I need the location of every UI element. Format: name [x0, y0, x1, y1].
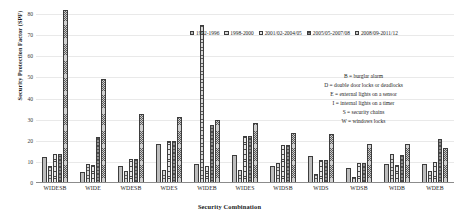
y-tick-label: 60 [27, 53, 33, 59]
y-tick-label: 0 [30, 180, 33, 186]
bar [390, 154, 395, 183]
bar [443, 148, 448, 183]
y-tick-label: 40 [27, 96, 33, 102]
legend-swatch-icon [259, 31, 263, 35]
bar-group [150, 14, 188, 183]
bar [101, 79, 106, 183]
bar [129, 159, 134, 183]
legend-swatch-icon [307, 31, 311, 35]
bar [324, 160, 329, 183]
legend-label: 2008/09-2011/12 [361, 30, 398, 36]
bar [58, 154, 63, 183]
y-tick-label: 10 [27, 159, 33, 165]
bar [308, 156, 313, 183]
bar [134, 159, 139, 183]
bar-group [188, 14, 226, 183]
bar-group [36, 14, 74, 183]
bar [270, 166, 275, 183]
bar [405, 144, 410, 183]
bar [357, 163, 362, 183]
x-tick-label: WIDESB [36, 185, 74, 191]
bar [346, 168, 351, 183]
bar [63, 10, 68, 183]
bar [48, 166, 53, 183]
bar [433, 162, 438, 183]
bar [286, 145, 291, 183]
y-tick-label: 70 [27, 32, 33, 38]
x-tick-label: WIDES [226, 185, 264, 191]
key-line: W = windows locks [276, 117, 451, 126]
legend-item: 2001/02-2004/05 [259, 30, 302, 36]
abbreviation-key: B = burglar alarmD = double door locks o… [276, 72, 451, 125]
bar [177, 117, 182, 183]
bar [139, 114, 144, 183]
legend-item: 1998-2000 [224, 30, 253, 36]
bar [438, 139, 443, 183]
chart-legend: 1992-19961998-20002001/02-2004/052005/05… [190, 30, 398, 36]
x-tick-label: WIDSB [264, 185, 302, 191]
legend-item: 2008/09-2011/12 [355, 30, 398, 36]
key-line: E = external lights on a sensor [276, 90, 451, 99]
bar [156, 144, 161, 183]
bar [86, 164, 91, 183]
key-line: I = internal lights on a timer [276, 99, 451, 108]
bar [172, 141, 177, 183]
bar [53, 154, 58, 183]
bar [42, 157, 47, 183]
bar [276, 163, 281, 183]
key-line: S = security chains [276, 108, 451, 117]
legend-swatch-icon [355, 31, 359, 35]
y-axis-title: Security Protection Factor (SPF) [16, 0, 23, 132]
bar [205, 166, 210, 183]
bar [362, 163, 367, 183]
x-axis-line [36, 182, 454, 183]
y-tick-label: 50 [27, 74, 33, 80]
bar [232, 155, 237, 183]
bar [319, 160, 324, 183]
bar-group [112, 14, 150, 183]
bar [281, 145, 286, 183]
y-tick-label: 20 [27, 138, 33, 144]
x-tick-label: WIDEB [188, 185, 226, 191]
bar-group [226, 14, 264, 183]
bar [395, 165, 400, 183]
bar [291, 133, 296, 183]
x-tick-label: WDEB [416, 185, 454, 191]
bar [243, 136, 248, 183]
key-line: D = double door locks or deadlocks [276, 81, 451, 90]
bar [194, 164, 199, 183]
legend-swatch-icon [224, 31, 228, 35]
legend-label: 1998-2000 [230, 30, 253, 36]
legend-label: 1992-1996 [196, 30, 219, 36]
bar-group [74, 14, 112, 183]
bar [367, 144, 372, 184]
x-tick-label: WIDE [74, 185, 112, 191]
bar [215, 120, 220, 183]
bar [167, 141, 172, 183]
bar [384, 164, 389, 183]
bar [210, 125, 215, 183]
x-tick-label: WDSB [340, 185, 378, 191]
bar [422, 164, 427, 183]
bar [253, 123, 258, 183]
legend-label: 2005/05-2007/08 [313, 30, 350, 36]
x-tick-label: WDESB [112, 185, 150, 191]
key-line: B = burglar alarm [276, 72, 451, 81]
bar [329, 134, 334, 183]
bar [400, 155, 405, 183]
x-tick-label: WIDS [302, 185, 340, 191]
legend-label: 2001/02-2004/05 [265, 30, 302, 36]
legend-item: 2005/05-2007/08 [307, 30, 350, 36]
legend-item: 1992-1996 [190, 30, 219, 36]
chart-container: Security Protection Factor (SPF) 0102030… [0, 0, 459, 222]
x-tick-labels: WIDESBWIDEWDESBWDESWIDEBWIDESWIDSBWIDSWD… [36, 185, 454, 191]
bar [118, 166, 123, 183]
y-tick-label: 30 [27, 117, 33, 123]
legend-swatch-icon [190, 31, 194, 35]
bar [200, 25, 205, 183]
x-tick-label: WIDB [378, 185, 416, 191]
y-tick-label: 80 [27, 11, 33, 17]
bar [91, 165, 96, 183]
bar [248, 136, 253, 183]
bar [96, 137, 101, 183]
